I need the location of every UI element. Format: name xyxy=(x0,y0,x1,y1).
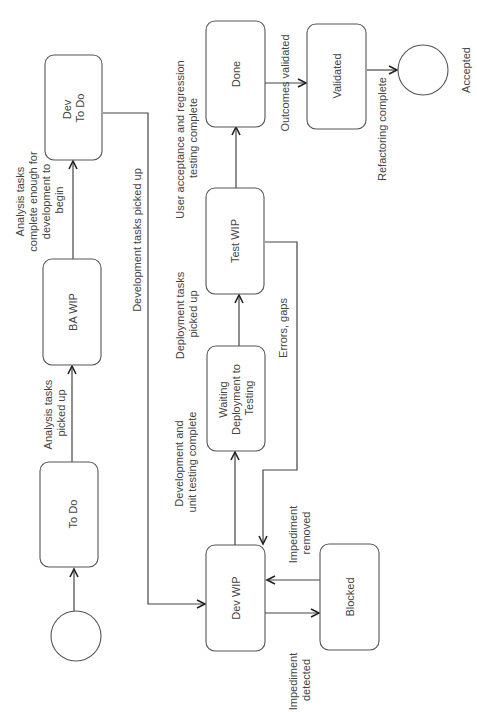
node-test-wip-label: Test WIP xyxy=(229,219,241,263)
edge-label-test-devwip: Errors, gaps xyxy=(277,298,289,358)
edge-start-to-todo xyxy=(70,569,78,611)
edge-label-validated-accepted: Refactoring complete xyxy=(376,77,388,181)
node-accepted-label: Accepted xyxy=(460,47,472,93)
edge-todo-to-ba-wip xyxy=(68,366,76,462)
edge-label-ba-devtodo: Analysis tasks complete enough for devel… xyxy=(14,148,65,251)
node-validated-label: Validated xyxy=(331,53,343,98)
node-dev-wip-label: Dev WIP xyxy=(230,576,242,619)
node-todo: To Do xyxy=(40,462,98,567)
node-todo-label: To Do xyxy=(67,500,79,529)
node-waiting-label-3: Testing xyxy=(243,381,255,416)
node-done: Done xyxy=(206,21,265,127)
node-dev-wip: Dev WIP xyxy=(206,545,265,651)
node-waiting-label-2: Deployment to xyxy=(230,364,242,435)
edge-dev-wip-to-waiting xyxy=(231,452,239,545)
edge-label-devwip-blocked: Impediment detected xyxy=(287,650,312,711)
edge-label-devwip-waiting: Development and unit testing complete xyxy=(173,412,198,513)
edge-label-blocked-devwip: Impediment removed xyxy=(287,503,312,564)
node-test-wip: Test WIP xyxy=(206,188,264,294)
node-ba-wip: BA WIP xyxy=(43,259,101,365)
edge-label-done-validated: Outcomes validated xyxy=(279,34,291,131)
edge-test-wip-to-done xyxy=(232,127,240,188)
edge-label-devtodo-devwip: Development tasks picked up xyxy=(131,168,143,312)
svg-text:Dev To Do: Dev To Do xyxy=(61,94,86,123)
node-validated: Validated xyxy=(307,24,366,129)
edge-dev-todo-to-dev-wip xyxy=(103,113,205,608)
node-blocked-label: Blocked xyxy=(344,577,356,616)
node-waiting-deployment: Waiting Deployment to Testing xyxy=(207,346,265,451)
edge-label-todo-ba: Analysis tasks picked up xyxy=(42,377,67,450)
node-ba-wip-label: BA WIP xyxy=(67,293,79,331)
node-accepted: Accepted xyxy=(398,45,472,95)
edge-waiting-to-test-wip xyxy=(235,295,243,346)
start-node xyxy=(51,611,101,661)
edge-blocked-to-dev-wip xyxy=(267,576,320,584)
workflow-diagram: To Do BA WIP Dev To Do Dev WIP Blocked W… xyxy=(0,0,477,712)
node-blocked: Blocked xyxy=(320,544,379,650)
edge-label-waiting-test: Deployment tasks picked up xyxy=(174,269,199,360)
edge-ba-wip-to-dev-todo xyxy=(69,161,77,259)
node-waiting-label-1: Waiting xyxy=(217,381,229,417)
edge-dev-wip-to-blocked xyxy=(265,609,319,617)
node-dev-todo-label-2: To Do xyxy=(74,94,86,123)
edge-label-test-done: User acceptance and regression testing c… xyxy=(174,57,199,218)
node-dev-todo: Dev To Do xyxy=(45,55,102,160)
node-dev-todo-label-1: Dev xyxy=(61,99,73,119)
node-done-label: Done xyxy=(230,61,242,87)
edge-validated-to-accepted xyxy=(367,66,397,74)
